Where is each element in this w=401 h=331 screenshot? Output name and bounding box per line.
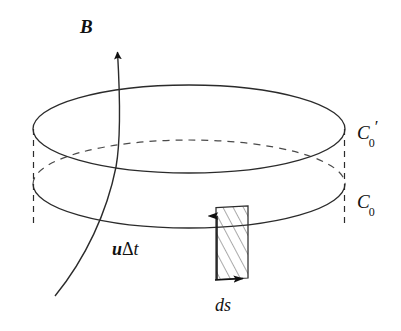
physics-diagram-figure: B uΔt ds C0′ C0 (0, 0, 401, 331)
ds-label: ds (215, 296, 231, 314)
c0-subscript: 0 (369, 205, 375, 219)
t-symbol: t (134, 239, 139, 259)
c0-prime-subscript: 0 (369, 136, 375, 150)
diagram-canvas (0, 0, 401, 331)
c0-prime-base: C (357, 122, 370, 143)
delta-symbol: Δ (122, 239, 134, 259)
u-delta-t-label: uΔt (112, 240, 139, 258)
c0-prime-mark: ′ (375, 117, 379, 136)
u-symbol: u (112, 239, 122, 259)
swept-area-strip (216, 206, 248, 280)
c0-loop-back-arc (33, 140, 345, 184)
c0-loop-front-arc (33, 184, 345, 228)
magnetic-field-line (55, 52, 120, 296)
c0-base: C (357, 191, 370, 212)
c0-prime-label: C0′ (357, 123, 379, 146)
b-field-label: B (80, 17, 93, 36)
c0-prime-loop-ellipse (33, 85, 345, 173)
c0-label: C0 (357, 192, 376, 215)
